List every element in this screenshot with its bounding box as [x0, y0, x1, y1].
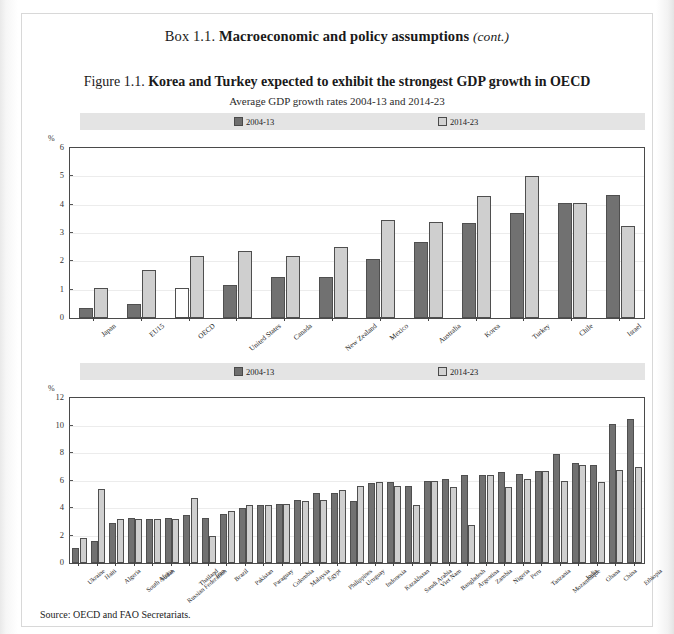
bar-2014-23 — [542, 471, 549, 563]
bar-2004-13 — [609, 424, 616, 563]
figure-title-text: Korea and Turkey expected to exhibit the… — [148, 74, 590, 89]
bar-group — [459, 398, 478, 563]
bar-group — [181, 398, 200, 563]
y-tick-mark — [69, 175, 73, 176]
box-title-cont: (cont.) — [473, 29, 509, 44]
bar-2014-23 — [190, 256, 204, 318]
x-tick-mark — [523, 317, 524, 321]
bar-series-container — [70, 148, 644, 318]
x-tick-mark — [634, 562, 635, 566]
bar-group — [126, 398, 145, 563]
x-tick-mark — [208, 562, 209, 566]
x-tick-label: EU15 — [148, 322, 166, 339]
y-tick-mark — [69, 289, 73, 290]
x-tick-label: Chile — [578, 322, 595, 338]
bar-group — [570, 398, 589, 563]
bar-group — [166, 148, 214, 318]
x-tick-mark — [300, 562, 301, 566]
x-tick-mark — [578, 562, 579, 566]
x-tick-mark — [430, 562, 431, 566]
bar-2004-13 — [535, 471, 542, 563]
bar-2004-13 — [313, 493, 320, 563]
x-tick-mark — [78, 562, 79, 566]
bar-2004-13 — [127, 304, 141, 318]
y-tick-mark — [69, 425, 73, 426]
x-tick-mark — [467, 562, 468, 566]
bar-2004-13 — [516, 474, 523, 563]
bar-group — [607, 398, 626, 563]
y-tick-label: 6 — [48, 142, 64, 152]
bar-group — [118, 148, 166, 318]
bar-group — [329, 398, 348, 563]
figure-title-lead: Figure 1.1. — [84, 74, 145, 89]
y-tick-label: 1 — [48, 284, 64, 294]
bar-group — [311, 398, 330, 563]
y-tick-mark — [69, 535, 73, 536]
y-tick-label: 2 — [48, 255, 64, 265]
bar-group — [274, 398, 293, 563]
bar-2004-13 — [294, 500, 301, 563]
bar-2014-23 — [357, 486, 364, 563]
x-tick-mark — [476, 317, 477, 321]
x-tick-label: Tanzania — [550, 567, 572, 587]
bar-2014-23 — [450, 487, 457, 563]
bar-2004-13 — [510, 213, 524, 318]
bar-group — [70, 148, 118, 318]
box-title-lead: Box 1.1. — [165, 28, 215, 44]
x-tick-label: Canada — [292, 322, 314, 342]
legend-swatch-light-icon — [438, 117, 447, 126]
bar-2004-13 — [424, 481, 431, 564]
x-tick-label: Haiti — [103, 567, 117, 581]
x-tick-label: Turkey — [531, 322, 552, 341]
x-tick-label: Korea — [483, 322, 502, 339]
bar-2004-13 — [72, 548, 79, 563]
bar-2004-13 — [350, 501, 357, 563]
bar-2004-13 — [368, 483, 375, 563]
bar-2004-13 — [220, 514, 227, 564]
x-tick-mark — [523, 562, 524, 566]
bar-2004-13 — [128, 518, 135, 563]
y-tick-label: 0 — [48, 312, 64, 322]
y-tick-label: 4 — [48, 199, 64, 209]
bar-2014-23 — [431, 481, 438, 564]
bar-2014-23 — [286, 256, 300, 318]
bar-2014-23 — [209, 536, 216, 564]
bar-2014-23 — [320, 500, 327, 563]
x-tick-mark — [486, 562, 487, 566]
bar-2014-23 — [334, 247, 348, 318]
bar-group — [163, 398, 182, 563]
x-tick-mark — [615, 562, 616, 566]
x-tick-label: Israel — [626, 322, 643, 338]
bar-2014-23 — [621, 226, 635, 318]
y-tick-label: 12 — [48, 392, 64, 402]
y-tick-label: 5 — [48, 170, 64, 180]
x-tick-label: Australia — [437, 322, 462, 345]
legend-entry-2004-13-b: 2004-13 — [234, 367, 274, 377]
bar-2004-13 — [109, 523, 116, 563]
x-tick-label: Brazil — [233, 567, 249, 582]
bar-2004-13 — [462, 223, 476, 318]
box-title: Box 1.1. Macroeconomic and policy assump… — [22, 28, 652, 45]
bar-2004-13 — [257, 505, 264, 563]
bar-2014-23 — [238, 251, 252, 318]
legend-swatch-dark-icon — [234, 367, 243, 376]
bar-2014-23 — [429, 222, 443, 318]
bar-2014-23 — [98, 489, 105, 563]
bar-group — [588, 398, 607, 563]
x-tick-label: Algeria — [123, 567, 142, 585]
bar-group — [218, 398, 237, 563]
bar-group — [214, 148, 262, 318]
bar-2014-23 — [487, 475, 494, 563]
legend-label-series1-b: 2004-13 — [246, 367, 274, 377]
x-tick-label: China — [622, 567, 638, 582]
bar-2004-13 — [366, 259, 380, 319]
bar-2014-23 — [265, 505, 272, 563]
bar-group — [309, 148, 357, 318]
x-tick-mark — [571, 317, 572, 321]
bar-group — [403, 398, 422, 563]
bar-2014-23 — [142, 270, 156, 318]
bar-2014-23 — [381, 220, 395, 318]
bar-group — [70, 398, 89, 563]
bar-group — [292, 398, 311, 563]
x-tick-mark — [97, 562, 98, 566]
